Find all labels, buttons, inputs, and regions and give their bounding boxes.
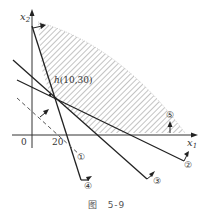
constraint-5-label: ⑤ (166, 110, 174, 120)
constraint-2-label: ② (184, 160, 192, 170)
constraint-3-label: ③ (153, 176, 161, 186)
constraint-1-label: ① (77, 152, 85, 162)
y-axis-label: x2 (20, 11, 31, 24)
caption-prefix: 图 (88, 200, 98, 210)
y-axis-arrow-icon (30, 9, 35, 16)
point-h-label: h(10,30) (54, 75, 93, 85)
figure-caption: 图5-9 (0, 198, 213, 211)
diagram-canvas: x2 x1 0 20 h(10,30) ① ② ③ ④ ⑤ (0, 0, 213, 221)
origin-label: 0 (21, 137, 27, 147)
constraint-4-label: ④ (84, 181, 92, 191)
point-h-marker (49, 94, 51, 96)
x-axis-label: x1 (187, 137, 197, 150)
x-tick-20: 20 (52, 137, 64, 147)
caption-number: 5-9 (108, 200, 126, 210)
linear-programming-figure: x2 x1 0 20 h(10,30) ① ② ③ ④ ⑤ 图5-9 (0, 0, 213, 221)
